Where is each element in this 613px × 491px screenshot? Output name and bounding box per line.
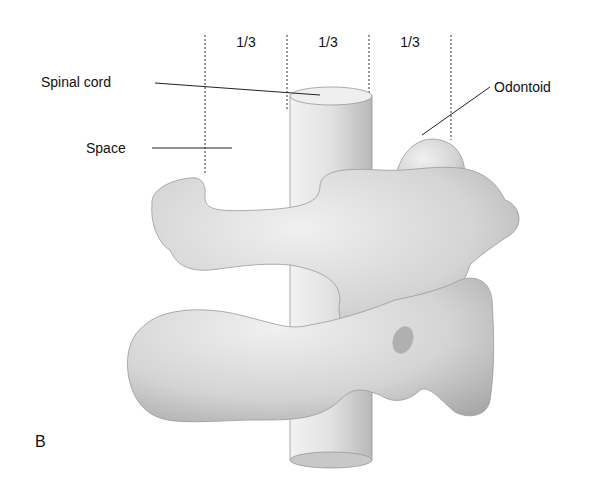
panel-letter: B bbox=[35, 433, 46, 451]
odontoid-label: Odontoid bbox=[494, 79, 551, 95]
third-label-1: 1/3 bbox=[216, 34, 276, 50]
third-label-2: 1/3 bbox=[298, 34, 358, 50]
space-label: Space bbox=[86, 140, 126, 156]
third-label-3: 1/3 bbox=[380, 34, 440, 50]
spinal-cord-label: Spinal cord bbox=[41, 74, 111, 90]
